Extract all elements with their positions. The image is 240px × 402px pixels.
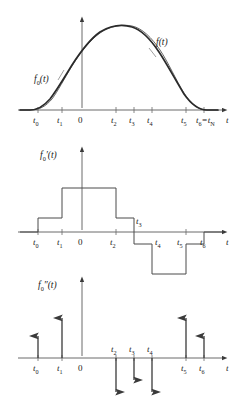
tick-label-t0: t0	[33, 115, 39, 127]
step-curve-fprime	[20, 188, 222, 274]
f-label-leader	[149, 48, 156, 57]
curve-f-smooth	[20, 25, 218, 110]
panel-fprime-ylabel: f0′(t)	[40, 150, 57, 162]
tick-label-fdp-zero: 0	[78, 363, 83, 373]
panel-fdoubleprime-axis-label: t	[226, 363, 229, 373]
tick-label-fprime-t6: t6	[200, 237, 206, 249]
tick-label-fprime-t4: t4	[155, 237, 161, 249]
tick-label-t4: t4	[147, 115, 153, 127]
tick-label-fdp-t0: t0	[33, 363, 39, 375]
tick-label-fdp-t3: t3	[129, 344, 135, 356]
tick-label-t3: t3	[129, 115, 135, 127]
impulse-train	[38, 318, 204, 392]
tick-label-fprime-t2: t2	[110, 237, 116, 249]
tick-label-fprime-t5: t5	[177, 237, 183, 249]
curve-label-f0: f0(t)	[34, 74, 49, 86]
panel-fprime-axis-label: t	[226, 237, 229, 247]
tick-label-t6-equals-tN: t6=tN	[196, 115, 215, 127]
tick-label-fdp-t6: t6	[199, 363, 205, 375]
curve-label-f: f(t)	[156, 37, 168, 48]
tick-label-zero: 0	[78, 115, 83, 125]
curve-f0-piecewise	[20, 26, 218, 110]
panel-fdoubleprime: f0″(t) t0 t1 0 t2 t3 t4 t5 t6	[18, 280, 229, 392]
figure-svg: f0(t) f(t) t0 t1 0 t2 t3 t4	[0, 0, 240, 402]
tick-label-fdp-t4: t4	[147, 344, 153, 356]
panel-fdoubleprime-ylabel: f0″(t)	[38, 280, 57, 292]
tick-label-fprime-t3: t3	[136, 216, 142, 228]
tick-label-fdp-t2: t2	[111, 344, 117, 356]
panel-fprime: f0′(t) t0 t1 0 t2 t3 t4 t5 t6	[18, 150, 229, 274]
tick-label-t2: t2	[111, 115, 117, 127]
tick-label-fprime-t0: t0	[33, 237, 39, 249]
derivatives-figure: f0(t) f(t) t0 t1 0 t2 t3 t4	[0, 0, 240, 402]
tick-label-t1: t1	[57, 115, 63, 127]
tick-label-t5: t5	[181, 115, 187, 127]
tick-label-fdp-t5: t5	[181, 363, 187, 375]
tick-label-fprime-zero: 0	[78, 237, 83, 247]
tick-label-fprime-t1: t1	[57, 237, 63, 249]
panel-f: f0(t) f(t) t0 t1 0 t2 t3 t4	[18, 22, 229, 127]
tick-label-fdp-t1: t1	[57, 363, 63, 375]
panel-f-axis-label: t	[226, 115, 229, 125]
